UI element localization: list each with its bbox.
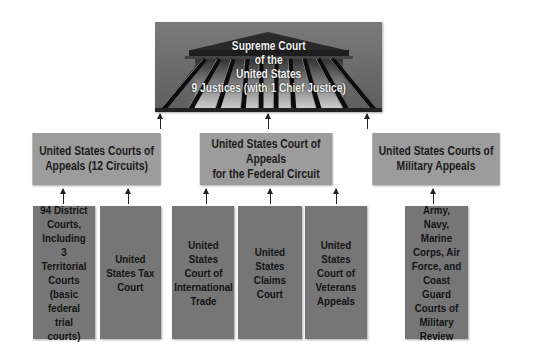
claims-court-label: United States Claims Court (254, 245, 286, 301)
arrow-icon (270, 189, 271, 204)
supreme-court-box: Supreme Court of the United States 9 Jus… (155, 22, 382, 112)
military-review-label: Army, Navy, Marine Corps, Air Force, and… (410, 203, 464, 343)
international-trade-label: United States Court of International Tra… (174, 238, 233, 308)
supreme-court-label: Supreme Court of the United States 9 Jus… (191, 39, 345, 95)
veterans-appeals-box: United States Court of Veterans Appeals (305, 206, 367, 339)
federal-circuit-box: United States Court of Appeals for the F… (200, 133, 332, 185)
veterans-appeals-label: United States Court of Veterans Appeals (316, 238, 357, 308)
arrow-icon (336, 189, 337, 204)
tax-court-label: United States Tax Court (106, 252, 154, 294)
tax-court-box: United States Tax Court (100, 206, 161, 339)
arrow-icon (160, 114, 161, 129)
arrow-icon (367, 114, 368, 129)
arrow-icon (206, 189, 207, 204)
arrow-icon (268, 114, 269, 129)
courts-of-appeals-box: United States Courts of Appeals (12 Circ… (32, 133, 160, 185)
district-courts-label: 94 District Courts, Including 3 Territor… (38, 203, 91, 343)
military-appeals-label: United States Courts of Military Appeals (379, 144, 494, 174)
federal-circuit-label: United States Court of Appeals for the F… (200, 137, 332, 182)
military-review-box: Army, Navy, Marine Corps, Air Force, and… (405, 206, 468, 339)
district-courts-box: 94 District Courts, Including 3 Territor… (33, 206, 95, 339)
military-appeals-box: United States Courts of Military Appeals (372, 133, 499, 185)
arrow-icon (128, 189, 129, 204)
claims-court-box: United States Claims Court (238, 206, 302, 339)
international-trade-box: United States Court of International Tra… (172, 206, 234, 339)
courts-of-appeals-label: United States Courts of Appeals (12 Circ… (39, 144, 154, 174)
